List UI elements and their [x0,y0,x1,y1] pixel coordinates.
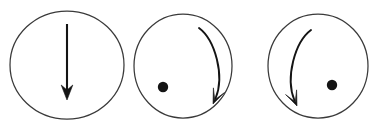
panel-3-group [268,14,368,118]
curved-arrow-shaft-3 [291,30,311,101]
circle-outline-3 [268,14,368,118]
dot-marker-3 [327,80,337,90]
panel-2-group [134,14,232,118]
diagram-canvas [0,0,378,128]
dot-marker-2 [158,82,168,92]
panel-1-group [10,11,124,119]
curved-arrow-shaft-2 [199,28,219,99]
figure-container [0,0,378,128]
